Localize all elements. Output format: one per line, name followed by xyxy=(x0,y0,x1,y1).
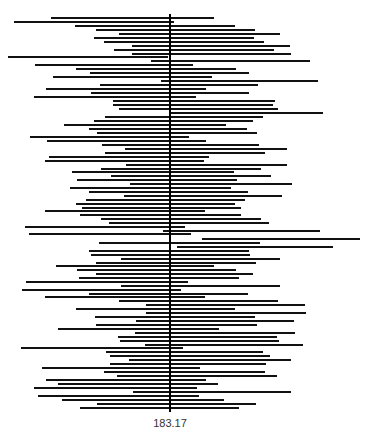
interval-line xyxy=(77,179,237,181)
interval-line xyxy=(26,281,188,283)
interval-line xyxy=(113,100,275,102)
interval-line xyxy=(163,230,320,232)
interval-line xyxy=(38,395,199,397)
interval-line xyxy=(62,399,224,401)
interval-line xyxy=(56,265,214,267)
interval-line xyxy=(14,21,174,23)
interval-line xyxy=(76,203,235,205)
interval-line xyxy=(114,49,274,51)
interval-line xyxy=(22,289,181,291)
interval-line xyxy=(110,363,266,365)
interval-line xyxy=(80,214,241,216)
interval-line xyxy=(96,273,253,275)
interval-line xyxy=(136,320,294,322)
interval-line xyxy=(161,80,318,82)
interval-line xyxy=(53,76,212,78)
interval-line xyxy=(119,300,278,302)
interval-line xyxy=(121,285,280,287)
interval-line xyxy=(77,269,236,271)
interval-line xyxy=(46,379,206,381)
interval-line xyxy=(49,156,209,158)
interval-line xyxy=(25,226,185,228)
interval-line xyxy=(105,116,263,118)
interval-line xyxy=(34,387,197,389)
interval-line xyxy=(110,355,270,357)
interval-line xyxy=(118,336,277,338)
interval-line xyxy=(76,308,235,310)
interval-line xyxy=(30,136,189,138)
interval-line xyxy=(119,33,280,35)
interval-line xyxy=(45,160,204,162)
interval-line xyxy=(58,328,219,330)
interval-line xyxy=(21,347,183,349)
interval-line xyxy=(109,222,269,224)
interval-line xyxy=(124,195,282,197)
reference-mean-line xyxy=(169,14,171,412)
interval-line xyxy=(82,207,241,209)
interval-line xyxy=(8,56,168,58)
interval-line xyxy=(96,262,256,264)
interval-line xyxy=(75,25,235,27)
interval-line xyxy=(177,246,333,248)
interval-line xyxy=(80,407,239,409)
interval-line xyxy=(171,112,323,114)
interval-line xyxy=(106,351,263,353)
reference-value-label: 183.17 xyxy=(140,417,200,429)
interval-line xyxy=(111,175,271,177)
interval-line xyxy=(70,187,231,189)
interval-line xyxy=(89,128,247,130)
interval-line xyxy=(119,108,278,110)
interval-line xyxy=(72,171,234,173)
interval-line xyxy=(51,17,214,19)
interval-line xyxy=(95,316,255,318)
confidence-interval-chart: 183.17 xyxy=(0,0,373,439)
interval-line xyxy=(42,367,200,369)
interval-line xyxy=(104,371,265,373)
interval-line xyxy=(132,45,290,47)
interval-line xyxy=(117,375,277,377)
interval-line xyxy=(96,324,257,326)
interval-line xyxy=(86,199,245,201)
interval-line xyxy=(96,29,255,31)
interval-line xyxy=(104,41,264,43)
interval-line xyxy=(121,258,280,260)
interval-line xyxy=(100,84,258,86)
interval-line xyxy=(94,120,253,122)
interval-line xyxy=(45,296,205,298)
interval-line xyxy=(130,183,292,185)
interval-line xyxy=(45,210,205,212)
interval-line xyxy=(79,277,239,279)
interval-line xyxy=(202,238,360,240)
interval-line xyxy=(135,332,295,334)
interval-line xyxy=(113,104,273,106)
interval-line xyxy=(58,383,218,385)
interval-line xyxy=(64,124,226,126)
interval-line xyxy=(151,60,310,62)
interval-line xyxy=(105,152,265,154)
interval-line xyxy=(47,140,206,142)
interval-line xyxy=(101,168,261,170)
interval-line xyxy=(29,233,191,235)
interval-line xyxy=(102,144,259,146)
interval-line xyxy=(129,359,291,361)
interval-line xyxy=(97,403,256,405)
interval-line xyxy=(94,37,254,39)
interval-line xyxy=(99,242,260,244)
interval-line xyxy=(34,96,196,98)
interval-line xyxy=(132,53,291,55)
interval-line xyxy=(125,148,287,150)
interval-line xyxy=(97,132,257,134)
interval-line xyxy=(76,68,236,70)
interval-line xyxy=(126,164,287,166)
interval-line xyxy=(101,218,261,220)
interval-line xyxy=(120,340,279,342)
interval-line xyxy=(46,88,206,90)
interval-line xyxy=(133,391,291,393)
